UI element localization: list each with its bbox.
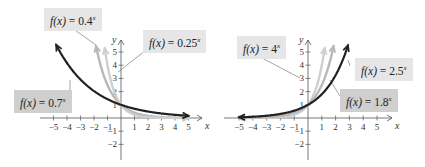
svg-text:−2: −2 (276, 122, 286, 132)
svg-text:4: 4 (300, 60, 305, 70)
svg-text:−2: −2 (294, 139, 304, 149)
label-f-0.7: f(x) = 0.7x (14, 90, 72, 113)
svg-text:−5: −5 (234, 122, 244, 132)
svg-text:2: 2 (146, 122, 151, 132)
svg-text:5: 5 (375, 122, 380, 132)
svg-text:−4: −4 (248, 122, 258, 132)
svg-text:−4: −4 (62, 122, 72, 132)
svg-text:3: 3 (113, 73, 118, 83)
svg-text:5: 5 (300, 47, 305, 57)
svg-text:−1: −1 (107, 126, 117, 136)
svg-text:3: 3 (347, 122, 352, 132)
svg-text:2: 2 (333, 122, 338, 132)
svg-text:−2: −2 (89, 122, 99, 132)
svg-text:4: 4 (361, 122, 366, 132)
svg-text:2: 2 (300, 87, 305, 97)
label-f-1.8: f(x) = 1.8x (340, 89, 398, 112)
svg-text:−3: −3 (76, 122, 86, 132)
svg-text:5: 5 (113, 47, 118, 57)
svg-text:1: 1 (132, 122, 137, 132)
svg-text:−2: −2 (107, 139, 117, 149)
curve-0.4 (96, 46, 189, 118)
svg-text:3: 3 (300, 73, 305, 83)
label-f-0.4: f(x) = 0.4x (44, 8, 102, 31)
svg-text:y: y (298, 34, 304, 45)
curve-0.25 (105, 48, 189, 118)
svg-text:−1: −1 (294, 126, 304, 136)
svg-text:−3: −3 (262, 122, 272, 132)
label-f-4: f(x) = 4x (237, 36, 286, 59)
svg-text:5: 5 (186, 122, 191, 132)
label-f-2.5: f(x) = 2.5x (355, 58, 413, 81)
curve-0.7 (56, 45, 188, 116)
svg-text:3: 3 (159, 122, 164, 132)
svg-text:4: 4 (173, 122, 178, 132)
svg-text:y: y (111, 34, 117, 45)
svg-text:x: x (204, 120, 210, 131)
svg-text:−5: −5 (49, 122, 59, 132)
svg-text:1: 1 (320, 122, 325, 132)
svg-text:4: 4 (113, 60, 118, 70)
label-f-0.25: f(x) = 0.25x (143, 30, 206, 53)
svg-text:x: x (394, 120, 400, 131)
